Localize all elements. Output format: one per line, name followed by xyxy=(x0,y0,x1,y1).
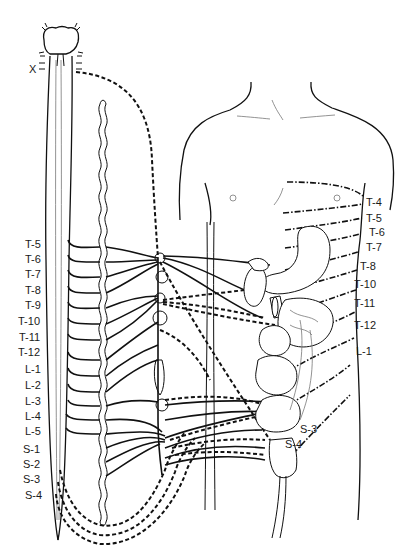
label-t8: T-8 xyxy=(25,284,41,296)
label-l5: L-5 xyxy=(25,425,41,437)
label-l3: L-3 xyxy=(25,395,41,407)
label-perineal-s4: S-4 xyxy=(285,438,302,450)
spinal-segment-labels: T-5 T-6 T-7 T-8 T-9 T-10 T-11 T-12 L-1 L… xyxy=(18,238,42,501)
label-t5: T-5 xyxy=(25,238,41,250)
bladder xyxy=(256,395,301,432)
aorta-right-wall xyxy=(214,222,215,510)
sacral-roots xyxy=(106,419,165,476)
nerve-innervation-diagram: X xyxy=(0,0,409,559)
label-s1: S-1 xyxy=(23,443,40,455)
aorta-left-wall xyxy=(205,222,207,510)
label-l2: L-2 xyxy=(25,379,41,391)
label-perineal-s3: S-3 xyxy=(300,423,317,435)
label-x-vagus: X xyxy=(29,63,37,75)
label-derm-t11: T-11 xyxy=(354,297,375,309)
label-derm-t6: T-6 xyxy=(369,226,385,238)
pelvic-splanchnic-loops xyxy=(56,432,205,544)
appendix-region xyxy=(259,326,290,356)
nipple-left xyxy=(230,195,236,201)
urethra xyxy=(272,476,286,538)
splanchnic-nerves xyxy=(106,247,158,406)
label-s2: S-2 xyxy=(23,458,40,470)
label-t9: T-9 xyxy=(25,299,41,311)
colon-lumen xyxy=(272,297,278,317)
ganglion-4 xyxy=(153,311,167,325)
sigmoid-colon xyxy=(256,356,297,395)
label-t11: T-11 xyxy=(19,331,40,343)
nipple-right xyxy=(334,195,340,201)
label-s4: S-4 xyxy=(25,489,42,501)
spinal-cord xyxy=(46,56,72,540)
dermatome-labels: T-4 T-5 T-6 T-7 T-8 T-10 T-11 T-12 L-1 xyxy=(354,196,385,357)
label-derm-t5: T-5 xyxy=(366,212,382,224)
label-t6: T-6 xyxy=(25,253,41,265)
label-t12: T-12 xyxy=(18,346,40,358)
label-l4: L-4 xyxy=(25,410,41,422)
label-derm-l1: L-1 xyxy=(356,345,372,357)
kidney xyxy=(244,267,266,306)
spinal-nerve-roots xyxy=(66,240,100,434)
abdominal-organs xyxy=(244,226,333,538)
sternum-mark xyxy=(274,188,283,205)
label-derm-t4: T-4 xyxy=(366,196,382,208)
label-derm-t7: T-7 xyxy=(366,241,382,253)
label-derm-t10: T-10 xyxy=(354,278,376,290)
vagus-nerve-path xyxy=(76,72,158,258)
label-t10: T-10 xyxy=(18,315,40,327)
label-l1: L-1 xyxy=(25,363,41,375)
label-s3: S-3 xyxy=(23,473,40,485)
sympathetic-chain xyxy=(99,100,107,526)
label-derm-t8: T-8 xyxy=(360,260,376,272)
stomach xyxy=(261,226,330,294)
label-t7: T-7 xyxy=(25,268,41,280)
label-derm-t12: T-12 xyxy=(354,319,376,331)
